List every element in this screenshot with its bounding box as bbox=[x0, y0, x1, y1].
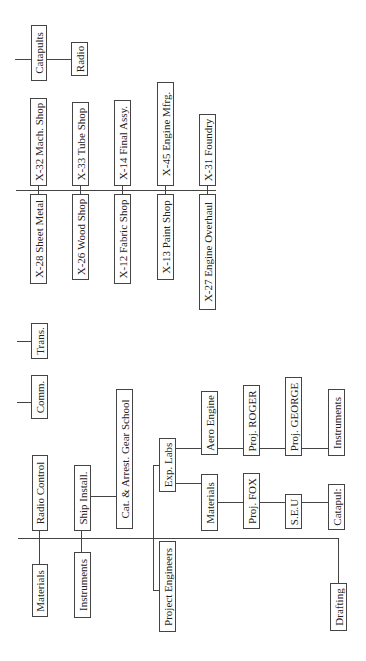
node-label: Proj. FOX bbox=[246, 478, 258, 524]
node-label: X-31 Foundry bbox=[202, 119, 214, 182]
org-chart: Catapults Radio X-32 Mach. Shop X-28 She… bbox=[0, 0, 366, 661]
connector bbox=[302, 448, 329, 449]
node-label: X-45 Engine Mfrg. bbox=[160, 92, 172, 176]
connector bbox=[302, 502, 329, 503]
connector bbox=[338, 538, 339, 583]
node-label: Ship Install. bbox=[77, 471, 89, 524]
main-line-upper bbox=[16, 190, 216, 191]
node-materials: Materials bbox=[32, 564, 48, 617]
node-radio: Radio bbox=[71, 42, 88, 76]
node-proj-roger: Proj. ROGER bbox=[243, 385, 260, 456]
node-label: Aero Engine bbox=[204, 395, 216, 451]
node-label: Project Engineers bbox=[162, 548, 174, 626]
node-ship-install: Ship Install. bbox=[74, 465, 91, 531]
node-x33-tube-shop: X-33 Tube Shop bbox=[72, 102, 89, 186]
node-radio-control: Radio Control bbox=[32, 455, 48, 531]
node-label: X-13 Paint Shop bbox=[160, 200, 172, 273]
node-seu: S.E.U bbox=[285, 494, 302, 529]
node-x26-wood-shop: X-26 Wood Shop bbox=[72, 194, 89, 280]
node-drafting: Drafting bbox=[330, 583, 347, 631]
node-label: Proj. GEORGE bbox=[288, 382, 300, 450]
node-label: S.E.U bbox=[288, 498, 300, 524]
node-label: Cat. & Arrest. Gear School bbox=[119, 399, 131, 518]
node-x12-fabric-shop: X-12 Fabric Shop bbox=[114, 194, 131, 284]
node-x31-foundry: X-31 Foundry bbox=[199, 114, 216, 186]
node-label: X-33 Tube Shop bbox=[75, 108, 87, 181]
node-x32-mach-shop: X-32 Mach. Shop bbox=[30, 98, 47, 186]
node-label: Instruments bbox=[331, 397, 343, 449]
node-catapults: Catapults bbox=[31, 25, 47, 81]
connector bbox=[176, 483, 202, 484]
node-x27-engine-overhaul: X-27 Engine Overhaul bbox=[199, 194, 216, 310]
node-label: X-28 Sheet Metal bbox=[33, 200, 45, 278]
node-x28-sheet-metal: X-28 Sheet Metal bbox=[30, 194, 47, 284]
node-label: Drafting bbox=[333, 588, 345, 625]
node-instruments-2: Instruments bbox=[328, 389, 345, 456]
node-label: X-26 Wood Shop bbox=[75, 199, 87, 276]
node-aero-engine: Aero Engine bbox=[201, 391, 218, 455]
node-label: X-12 Fabric Shop bbox=[117, 200, 129, 279]
node-label: Comm. bbox=[34, 381, 46, 414]
node-label: Radio bbox=[74, 46, 86, 72]
connector bbox=[218, 448, 244, 449]
node-label: Materials bbox=[34, 570, 46, 612]
connector bbox=[81, 531, 82, 553]
node-label: X-14 Final Assy. bbox=[117, 106, 129, 180]
node-x45-engine-mfrg: X-45 Engine Mfrg. bbox=[157, 82, 174, 186]
connector bbox=[176, 448, 202, 449]
node-label: Catapults bbox=[33, 32, 45, 74]
node-x14-final-assy: X-14 Final Assy. bbox=[114, 100, 131, 186]
node-label: Trans. bbox=[34, 327, 46, 354]
connector bbox=[39, 531, 40, 564]
connector bbox=[47, 59, 72, 60]
connector bbox=[17, 402, 32, 403]
node-comm: Comm. bbox=[31, 375, 48, 419]
connector bbox=[218, 502, 244, 503]
node-trans: Trans. bbox=[31, 323, 48, 359]
connector bbox=[153, 465, 154, 591]
connector bbox=[91, 496, 117, 497]
connector bbox=[260, 448, 286, 449]
connector bbox=[17, 341, 32, 342]
node-label: Radio Control bbox=[34, 462, 46, 525]
connector bbox=[15, 59, 32, 60]
node-proj-george: Proj. GEORGE bbox=[285, 377, 302, 456]
node-instruments: Instruments bbox=[74, 552, 91, 618]
node-cat-arrest-gear-school: Cat. & Arrest. Gear School bbox=[116, 389, 133, 529]
node-label: Materials bbox=[204, 482, 216, 524]
node-label: Exp. Labs bbox=[162, 443, 174, 488]
node-project-engineers: Project Engineers bbox=[159, 541, 176, 632]
node-label: X-27 Engine Overhaul bbox=[202, 202, 214, 302]
node-materials-2: Materials bbox=[201, 474, 218, 531]
node-label: Catapul: bbox=[331, 488, 343, 525]
node-label: X-32 Mach. Shop bbox=[33, 103, 45, 182]
node-label: Instruments bbox=[77, 559, 89, 611]
node-label: Proj. ROGER bbox=[246, 390, 258, 451]
node-exp-labs: Exp. Labs bbox=[159, 438, 176, 492]
node-proj-fox: Proj. FOX bbox=[243, 473, 260, 529]
node-x13-paint-shop: X-13 Paint Shop bbox=[157, 194, 174, 280]
main-line-lower bbox=[18, 538, 339, 539]
node-catapul: Catapul: bbox=[328, 484, 345, 530]
connector bbox=[260, 502, 286, 503]
